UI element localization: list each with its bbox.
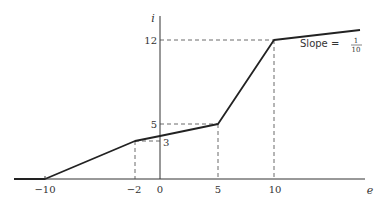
series-line <box>14 30 360 179</box>
y-tick-5: 5 <box>151 119 157 130</box>
guide-lines <box>135 40 274 179</box>
chart: −10 −2 0 5 10 e 12 5 3 i Slope = 1 10 <box>0 0 385 204</box>
y-tick-12: 12 <box>144 35 157 46</box>
x-tick-10: 10 <box>269 184 282 195</box>
y-tick-3: 3 <box>163 137 169 148</box>
x-tick-0: 0 <box>157 184 163 195</box>
slope-annotation: Slope = <box>300 38 339 49</box>
slope-numerator: 1 <box>354 37 358 45</box>
y-axis-label: i <box>151 12 155 25</box>
x-tick-5: 5 <box>215 184 221 195</box>
slope-denominator: 10 <box>352 46 361 54</box>
x-axis-label: e <box>367 184 374 197</box>
x-tick-neg2: −2 <box>127 184 142 195</box>
x-tick-neg10: −10 <box>34 184 55 195</box>
